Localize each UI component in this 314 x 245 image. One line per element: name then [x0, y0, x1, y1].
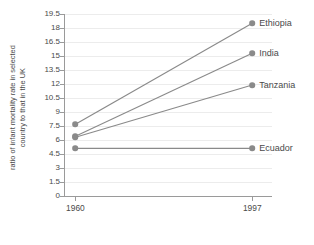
data-point-marker[interactable]: [249, 50, 255, 56]
y-axis-title: ratio of infant mortality rate in select…: [0, 0, 34, 215]
y-axis-tick-mark: [60, 126, 64, 127]
y-axis-title-line-1: ratio of infant mortality rate in select…: [7, 45, 17, 170]
y-axis-tick-mark: [60, 70, 64, 71]
x-axis-tick-mark: [252, 197, 253, 201]
series-line-india: [75, 53, 252, 136]
data-point-marker[interactable]: [249, 21, 255, 27]
x-axis-tick-mark: [75, 197, 76, 201]
series-label-ecuador: Ecuador: [259, 143, 293, 153]
y-axis-tick-mark: [60, 84, 64, 85]
plot-area: [64, 14, 272, 196]
series-label-india: India: [259, 48, 279, 58]
y-axis-tick-mark: [60, 98, 64, 99]
y-axis-tick-mark: [60, 42, 64, 43]
data-point-marker[interactable]: [73, 121, 79, 127]
x-axis-tick-label: 1960: [66, 203, 85, 213]
y-axis-tick-label: 12: [51, 80, 60, 88]
y-axis-title-line-2: country to that in the UK: [17, 45, 27, 170]
infant-mortality-ratio-line-chart: ratio of infant mortality rate in select…: [0, 0, 314, 245]
data-point-marker[interactable]: [73, 146, 79, 152]
y-axis-line: [64, 14, 65, 197]
y-axis-tick-label: 19.5: [44, 10, 60, 18]
series-label-ethiopia: Ethiopia: [259, 18, 292, 28]
y-axis-tick-mark: [60, 14, 64, 15]
x-axis-tick-label: 1997: [243, 203, 262, 213]
data-point-marker[interactable]: [73, 134, 79, 140]
y-axis-tick-mark: [60, 154, 64, 155]
y-axis-tick-label: 13.5: [44, 66, 60, 74]
y-axis-tick-mark: [60, 56, 64, 57]
data-point-marker[interactable]: [249, 146, 255, 152]
y-axis-tick-mark: [60, 196, 64, 197]
y-axis-tick-mark: [60, 112, 64, 113]
y-axis-tick-mark: [60, 140, 64, 141]
y-axis-tick-labels: 01.534.567.5910.51213.51516.51819.5: [30, 14, 63, 196]
series-line-tanzania: [75, 85, 252, 137]
x-axis-line: [64, 196, 272, 197]
data-point-marker[interactable]: [249, 82, 255, 88]
y-axis-tick-mark: [60, 168, 64, 169]
series-line-ethiopia: [75, 23, 252, 124]
y-axis-tick-label: 15: [51, 52, 60, 60]
y-axis-tick-mark: [60, 182, 64, 183]
y-axis-tick-label: 18: [51, 24, 60, 32]
y-axis-tick-mark: [60, 28, 64, 29]
y-axis-tick-label: 4.5: [49, 150, 60, 158]
y-axis-tick-label: 10.5: [44, 94, 60, 102]
series-label-tanzania: Tanzania: [259, 80, 295, 90]
y-axis-tick-label: 7.5: [49, 122, 60, 130]
y-axis-tick-label: 16.5: [44, 38, 60, 46]
y-axis-tick-label: 1.5: [49, 178, 60, 186]
series-lines: [64, 14, 272, 196]
